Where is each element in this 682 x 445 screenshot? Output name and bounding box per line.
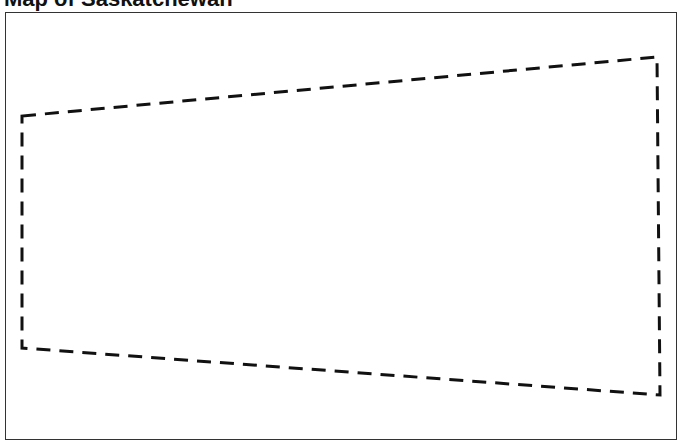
map-canvas [0,0,682,445]
province-boundary [22,57,660,395]
